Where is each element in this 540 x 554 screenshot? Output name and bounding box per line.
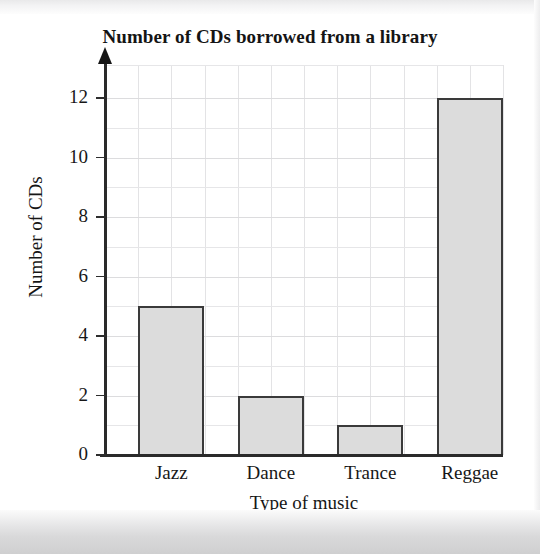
gridline-vertical <box>205 65 206 455</box>
bar-jazz <box>138 306 204 456</box>
y-axis-tick-label: 6 <box>44 266 88 285</box>
y-axis-tick-label: 12 <box>44 87 88 106</box>
y-axis-title: Number of CDs <box>25 137 47 337</box>
x-axis-tick-label: Reggae <box>425 462 515 484</box>
chart-title: Number of CDs borrowed from a library <box>0 26 540 48</box>
x-axis-tick-label: Jazz <box>126 462 216 484</box>
y-axis-tick <box>96 97 106 99</box>
gridline-vertical <box>503 65 504 455</box>
y-axis-tick-label: 0 <box>44 444 88 463</box>
gridline-vertical <box>304 65 305 455</box>
gridline-vertical <box>404 65 405 455</box>
x-axis-line <box>100 454 503 457</box>
bar-dance <box>238 396 304 457</box>
y-axis-tick <box>96 157 106 159</box>
y-axis-tick <box>96 395 106 397</box>
x-axis-tick-label: Dance <box>226 462 316 484</box>
bar-chart-figure: Number of CDs borrowed from a library 02… <box>0 0 540 554</box>
y-axis-tick <box>96 335 106 337</box>
y-axis-tick <box>96 216 106 218</box>
gridline-horizontal <box>105 65 503 66</box>
scan-artifact-bottom <box>0 510 540 554</box>
y-axis-arrow-icon <box>98 47 112 64</box>
x-axis-tick-label: Trance <box>325 462 415 484</box>
gridline-vertical <box>370 65 371 455</box>
bar-trance <box>337 425 403 456</box>
plot-area <box>105 65 503 455</box>
y-axis-line <box>104 62 107 457</box>
y-axis-tick <box>96 276 106 278</box>
y-axis-tick-label: 8 <box>44 206 88 225</box>
bar-reggae <box>437 98 503 456</box>
y-axis-tick <box>96 454 106 456</box>
y-axis-tick-label: 10 <box>44 147 88 166</box>
gridline-vertical <box>337 65 338 455</box>
y-axis-tick-label: 4 <box>44 325 88 344</box>
y-axis-tick-label: 2 <box>44 385 88 404</box>
